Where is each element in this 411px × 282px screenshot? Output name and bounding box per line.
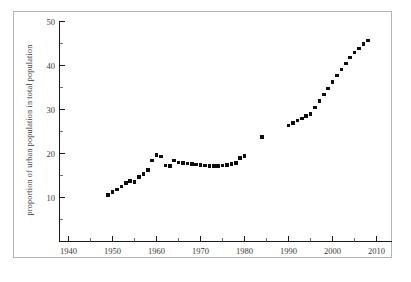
y-tick-label-30: 30 — [47, 105, 56, 115]
data-point — [331, 80, 335, 84]
data-point — [186, 162, 190, 166]
x-tick-label-1990: 1990 — [280, 246, 297, 256]
data-point — [155, 153, 159, 157]
data-point — [362, 42, 366, 46]
x-tick-label-1980: 1980 — [236, 246, 253, 256]
data-point — [225, 163, 229, 167]
y-tick-label-20: 20 — [47, 149, 56, 159]
data-point — [124, 181, 128, 185]
data-point — [190, 162, 194, 166]
data-point — [357, 47, 361, 51]
data-point — [120, 185, 124, 189]
data-point — [212, 164, 216, 168]
data-point — [221, 164, 225, 168]
data-point — [335, 74, 339, 78]
data-point — [168, 164, 172, 168]
data-point — [309, 112, 313, 116]
data-point — [344, 62, 348, 66]
x-tick-label-2010: 2010 — [368, 246, 385, 256]
y-tick-label-10: 10 — [47, 193, 56, 203]
data-point — [199, 163, 203, 167]
data-point — [230, 162, 234, 166]
data-point — [313, 106, 317, 110]
data-point — [353, 51, 357, 55]
x-tick-label-2000: 2000 — [324, 246, 341, 256]
data-point — [208, 164, 212, 168]
data-point — [243, 154, 247, 158]
x-axis-ticks — [69, 236, 377, 242]
data-point — [137, 175, 141, 179]
data-point — [177, 161, 181, 165]
data-point — [318, 99, 322, 103]
data-point — [348, 56, 352, 60]
data-point — [238, 156, 242, 160]
y-axis-tick-labels: 50 40 30 20 10 — [47, 17, 56, 203]
data-point — [172, 159, 176, 163]
data-point — [142, 172, 146, 176]
data-point — [115, 188, 119, 192]
chart-svg: proportion of urban population in total … — [0, 0, 411, 282]
data-point — [322, 93, 326, 97]
data-point — [146, 168, 150, 172]
data-point — [234, 161, 238, 165]
x-tick-label-1970: 1970 — [192, 246, 209, 256]
x-axis-tick-labels: 1940 1950 1960 1970 1980 1990 2000 2010 — [60, 246, 385, 256]
data-point — [111, 190, 115, 194]
data-point — [128, 179, 132, 183]
data-point — [287, 124, 291, 128]
chart-figure: proportion of urban population in total … — [0, 0, 411, 282]
data-point — [159, 155, 163, 159]
y-tick-label-50: 50 — [47, 17, 56, 27]
y-axis-label: proportion of urban population in total … — [25, 45, 34, 216]
data-point — [194, 163, 198, 167]
data-point — [296, 119, 300, 123]
data-point — [203, 164, 207, 168]
data-point — [326, 87, 330, 91]
data-point — [340, 68, 344, 72]
y-tick-label-40: 40 — [47, 61, 56, 71]
data-point — [133, 180, 137, 184]
data-point — [164, 164, 168, 168]
y-axis-ticks — [60, 22, 66, 220]
data-point — [366, 39, 370, 43]
scatter-plot: proportion of urban population in total … — [0, 0, 411, 282]
data-point — [300, 117, 304, 121]
data-point — [106, 193, 110, 197]
data-point — [260, 135, 264, 139]
data-point — [150, 159, 154, 163]
data-point-group — [106, 39, 369, 197]
data-point — [181, 161, 185, 165]
data-point — [304, 114, 308, 118]
data-point — [216, 164, 220, 168]
x-tick-label-1940: 1940 — [60, 246, 77, 256]
x-tick-label-1960: 1960 — [148, 246, 165, 256]
x-tick-label-1950: 1950 — [104, 246, 121, 256]
data-point — [291, 121, 295, 125]
